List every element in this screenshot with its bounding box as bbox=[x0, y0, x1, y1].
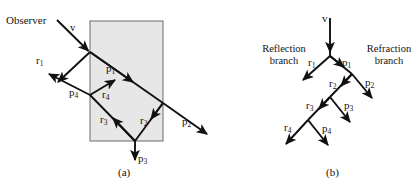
label-b-p3: p3 bbox=[344, 100, 353, 111]
caption-a: (a) bbox=[118, 166, 130, 178]
ray-r1 bbox=[58, 52, 90, 82]
label-a-p1: p1 bbox=[106, 63, 115, 74]
label-a-p4: p4 bbox=[69, 87, 78, 98]
label-a-v: v bbox=[70, 22, 76, 33]
label-a-r1: r1 bbox=[36, 55, 43, 66]
label-b-v: v bbox=[322, 13, 328, 24]
refraction-branch-label: Refractionbranch bbox=[360, 43, 415, 66]
reflection-branch-label: Reflectionbranch bbox=[253, 43, 315, 66]
label-a-r3: r3 bbox=[100, 114, 107, 125]
label-a-p2: p2 bbox=[182, 116, 191, 127]
label-b-r3: r3 bbox=[306, 100, 313, 111]
tree-edge-r3-arrow bbox=[319, 97, 330, 109]
label-a-r4: r4 bbox=[102, 89, 109, 100]
label-b-r4: r4 bbox=[284, 122, 291, 133]
label-b-r1: r1 bbox=[308, 57, 315, 68]
observer-label: Observer bbox=[6, 14, 46, 26]
tree-edge-r2-arrow bbox=[341, 74, 352, 86]
ray-tracing-figure bbox=[0, 0, 415, 190]
label-b-r2: r2 bbox=[329, 78, 336, 89]
caption-b: (b) bbox=[326, 166, 339, 178]
label-a-p3: p3 bbox=[138, 153, 147, 164]
label-a-r2: r2 bbox=[140, 115, 147, 126]
label-b-p1: p1 bbox=[342, 57, 351, 68]
label-b-p4: p4 bbox=[322, 123, 331, 134]
label-b-p2: p2 bbox=[365, 77, 374, 88]
